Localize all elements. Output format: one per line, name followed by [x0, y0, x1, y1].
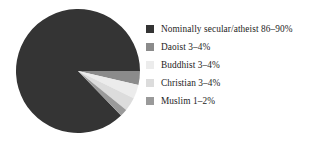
legend-item-label: Christian 3–4%	[161, 78, 220, 89]
legend-item-label: Muslim 1–2%	[161, 96, 215, 107]
legend-swatch-icon	[146, 25, 154, 33]
pie-chart-plot-area	[0, 0, 145, 141]
legend-item-label: Daoist 3–4%	[161, 42, 210, 53]
legend-item-label: Nominally secular/atheist 86–90%	[161, 24, 293, 35]
legend-swatch-icon	[146, 79, 154, 87]
legend-swatch-icon	[146, 97, 154, 105]
pie-slice-group	[16, 9, 140, 133]
legend-item-label: Buddhist 3–4%	[161, 60, 220, 71]
chart-legend: Nominally secular/atheist 86–90% Daoist …	[146, 20, 314, 110]
legend-item-muslim[interactable]: Muslim 1–2%	[146, 92, 314, 110]
legend-item-buddhist[interactable]: Buddhist 3–4%	[146, 56, 314, 74]
legend-swatch-icon	[146, 43, 154, 51]
legend-item-christian[interactable]: Christian 3–4%	[146, 74, 314, 92]
pie-chart-svg	[0, 0, 145, 141]
pie-chart-figure: Nominally secular/atheist 86–90% Daoist …	[0, 0, 314, 141]
legend-item-nominally-secular-atheist[interactable]: Nominally secular/atheist 86–90%	[146, 20, 314, 38]
legend-item-daoist[interactable]: Daoist 3–4%	[146, 38, 314, 56]
legend-swatch-icon	[146, 61, 154, 69]
